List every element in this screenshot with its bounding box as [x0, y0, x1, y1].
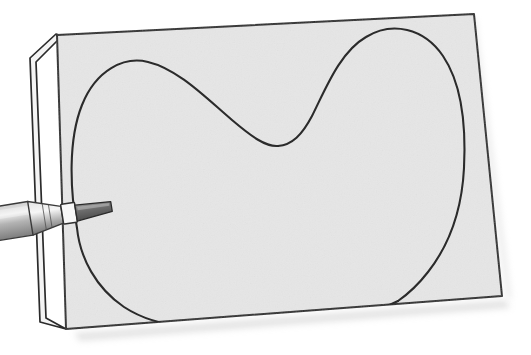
illustration-canvas: A craft knife blade cutting a large hear…	[0, 0, 531, 355]
paper-front-sheet	[57, 14, 502, 329]
paper-cutting-illustration	[0, 0, 531, 355]
